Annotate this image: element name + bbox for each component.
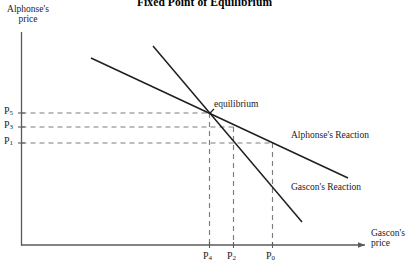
y-axis-label-line2: price (2, 14, 54, 24)
fixed-point-equilibrium-figure: Fixed Point of Equilibrium (0, 0, 409, 270)
equilibrium-leader-line (210, 109, 214, 113)
alphonse-reaction-label: Alphonse's Reaction (291, 130, 369, 140)
equilibrium-annotation: equilibrium (214, 99, 258, 109)
guide-lines-group (22, 113, 275, 245)
gascon-reaction-curve (153, 46, 302, 222)
y-tick-label-p1: P1 (4, 136, 13, 148)
y-tick-label-p3: P3 (4, 120, 13, 132)
tick-marks-group (18, 113, 273, 248)
x-tick-label-p4: P4 (203, 251, 212, 263)
x-tick-label-p4-sub: 4 (209, 254, 213, 262)
x-tick-label-p2-sub: 2 (233, 254, 237, 262)
x-tick-label-p2: P2 (227, 251, 236, 263)
y-tick-label-p3-sub: 3 (10, 123, 14, 131)
x-tick-label-p0-sub: 0 (272, 254, 276, 262)
x-axis-label: Gascon'sprice (371, 228, 405, 249)
x-axis-arrowhead (358, 242, 365, 248)
alphonse-reaction-curve (91, 58, 348, 178)
x-tick-label-p0: P0 (266, 251, 275, 263)
x-axis-label-line1: Gascon's (371, 228, 405, 238)
y-tick-label-p5-sub: 5 (10, 109, 14, 117)
x-axis-label-line2: price (371, 238, 405, 248)
y-tick-label-p5: P5 (4, 106, 13, 118)
y-axis-label: Alphonse'sprice (2, 4, 54, 25)
y-tick-label-p1-sub: 1 (10, 139, 14, 147)
equilibrium-marker-group (210, 109, 214, 113)
gascon-reaction-label: Gascon's Reaction (291, 182, 361, 192)
y-axis-label-line1: Alphonse's (7, 4, 49, 14)
